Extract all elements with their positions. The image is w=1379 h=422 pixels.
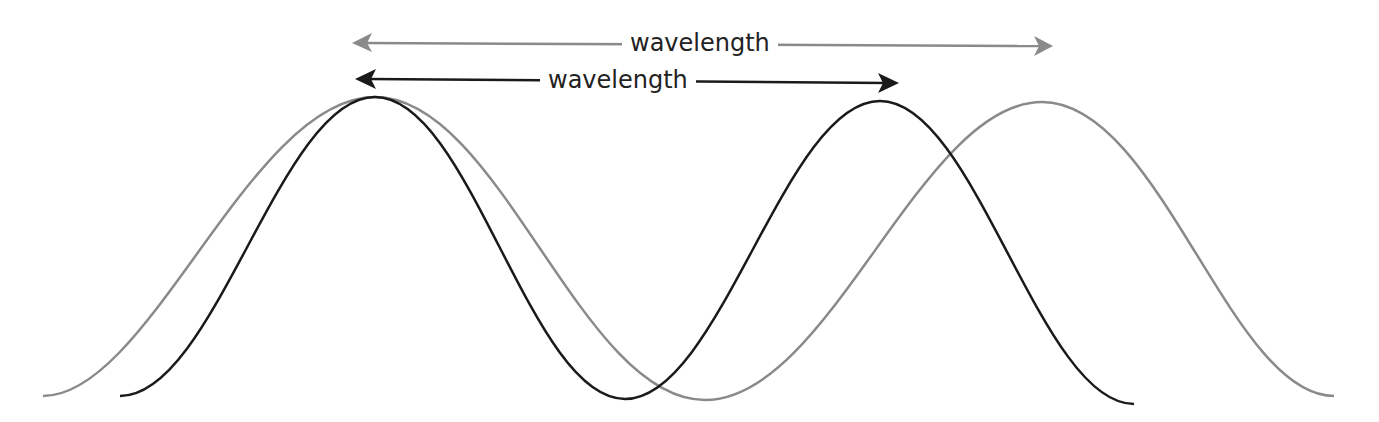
gray-wavelength-label: wavelength	[622, 29, 778, 57]
wave-diagram	[0, 0, 1379, 422]
black-wave	[120, 97, 1134, 404]
black-wavelength-label: wavelength	[540, 66, 696, 94]
